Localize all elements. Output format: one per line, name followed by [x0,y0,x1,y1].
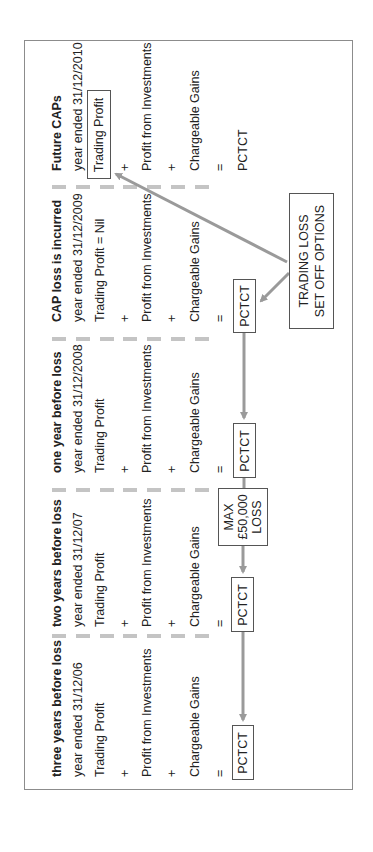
investments-label: Profit from Investments [140,648,154,777]
plus-sign: + [165,770,179,777]
investments-label: Profit from Investments [140,344,154,473]
set-off-line-2: SET OFF OPTIONS [312,205,328,317]
pctct-label: PCTCT [236,584,250,626]
trading-profit-box: Trading Profit [87,90,111,179]
gains-label: Chargeable Gains [188,676,202,777]
plus-sign: + [165,315,179,322]
max-loss-line-3: LOSS [250,494,264,539]
pctct-label: PCTCT [236,732,250,774]
set-off-line-1: TRADING LOSS [296,205,312,317]
pctct-label: PCTCT [238,430,252,472]
plus-sign: + [165,164,179,171]
plus-sign: + [165,620,179,627]
pctct-box: PCTCT [231,577,254,632]
equals-sign: = [213,164,227,171]
pctct-box: PCTCT [232,725,254,780]
max-loss-line-2: £50,000 [236,494,250,539]
pctct-box: PCTCT [233,279,256,333]
gains-label: Chargeable Gains [188,372,202,473]
set-off-text: TRADING LOSS SET OFF OPTIONS [296,205,328,317]
trading-profit-label: Trading Profit = Nil [93,219,107,322]
year-label: year ended 31/12/2010 [71,42,85,171]
pctct-box: PCTCT [233,423,256,478]
year-label: year ended 31/12/2008 [71,344,85,473]
pctct-label: PCTCT [238,285,252,327]
investments-label: Profit from Investments [140,42,154,171]
trading-profit-label: Trading Profit [93,552,107,627]
trading-profit-label: Trading Profit [93,398,107,473]
year-label: year ended 31/12/07 [71,512,85,627]
equals-sign: = [213,315,227,322]
column-heading: Future CAPs [50,95,64,171]
gains-label: Chargeable Gains [188,70,202,171]
plus-sign: + [118,770,132,777]
column-heading: one year before loss [50,351,64,473]
year-label: year ended 31/12/06 [71,662,85,777]
trading-profit-label: Trading Profit [92,97,106,172]
plus-sign: + [165,466,179,473]
equals-sign: = [213,770,227,777]
max-loss-line-1: MAX [222,494,236,539]
plus-sign: + [118,315,132,322]
column-heading: three years before loss [50,640,64,777]
equals-sign: = [213,620,227,627]
gains-label: Chargeable Gains [188,526,202,627]
plus-sign: + [118,620,132,627]
equals-sign: = [213,466,227,473]
gains-label: Chargeable Gains [188,221,202,322]
column-heading: two years before loss [50,499,64,627]
plus-sign: + [118,466,132,473]
max-loss-box: MAX £50,000 LOSS [218,488,268,546]
pctct-label: PCTCT [236,129,250,171]
investments-label: Profit from Investments [140,193,154,322]
max-loss-text: MAX £50,000 LOSS [222,494,264,539]
column-heading: CAP loss is incurred [50,200,64,322]
year-label: year ended 31/12/2009 [71,193,85,322]
plus-sign: + [118,164,132,171]
trading-profit-label: Trading Profit [93,702,107,777]
investments-label: Profit from Investments [140,498,154,627]
trading-loss-set-off-box: TRADING LOSS SET OFF OPTIONS [289,193,334,329]
